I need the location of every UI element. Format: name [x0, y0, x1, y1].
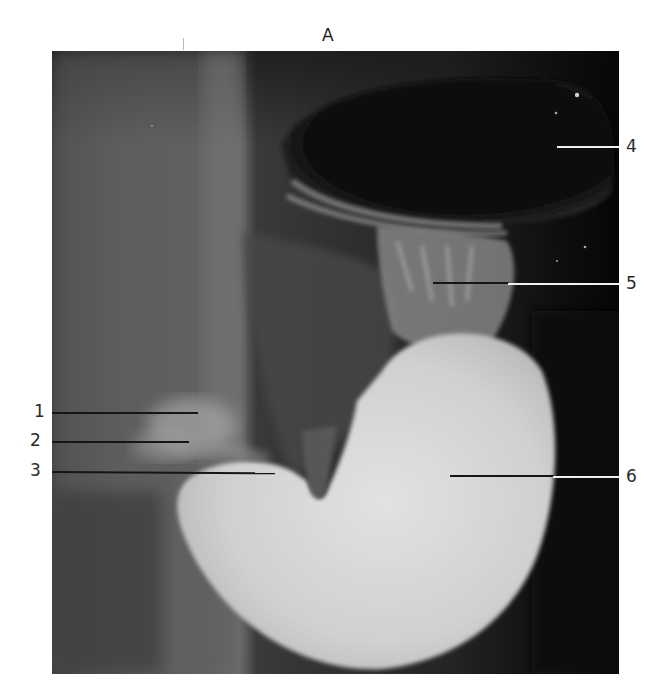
label-number-4: 4: [626, 138, 637, 155]
label-number-2: 2: [30, 432, 41, 449]
panel-label: A: [322, 25, 334, 45]
leader-line-1: [52, 412, 198, 414]
crop-tick-mark: [183, 38, 184, 50]
leader-line-6-outer: [553, 476, 619, 478]
label-number-6: 6: [626, 468, 637, 485]
leader-line-4: [557, 146, 619, 148]
leader-line-5-inner: [433, 282, 509, 284]
radiograph-drawing: [52, 51, 619, 674]
label-number-1: 1: [34, 403, 45, 420]
label-number-5: 5: [626, 275, 637, 292]
radiograph-image: [52, 51, 619, 674]
label-number-3: 3: [30, 462, 41, 479]
leader-line-6-inner: [450, 475, 554, 477]
leader-line-2: [52, 441, 189, 443]
leader-line-5-outer: [508, 283, 619, 285]
